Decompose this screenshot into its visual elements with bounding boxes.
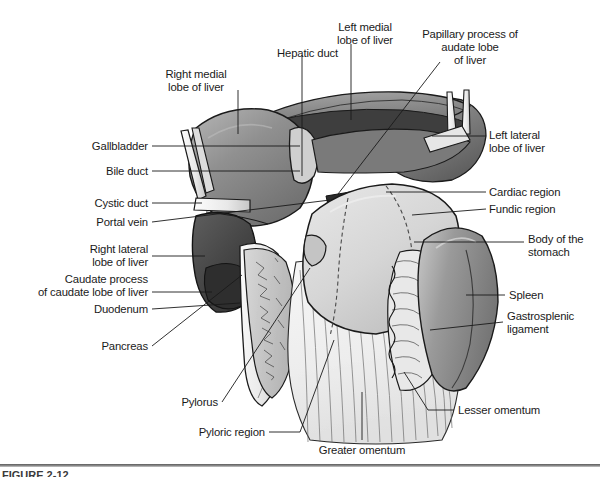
figure-caption: FIGURE 2-12 bbox=[2, 469, 598, 477]
label-papillary-process: Papillary process of audate lobe of live… bbox=[398, 28, 542, 68]
spleen-shape bbox=[418, 228, 498, 391]
label-pylorus: Pylorus bbox=[98, 396, 218, 409]
label-caudate-process: Caudate process of caudate lobe of liver bbox=[4, 273, 148, 299]
label-gastrosplenic-ligament: Gastrosplenic ligament bbox=[507, 310, 600, 336]
label-portal-vein: Portal vein bbox=[28, 216, 148, 229]
label-pyloric-region: Pyloric region bbox=[145, 426, 265, 439]
label-cardiac-region: Cardiac region bbox=[489, 186, 599, 199]
label-lesser-omentum: Lesser omentum bbox=[458, 404, 588, 417]
label-gallbladder: Gallbladder bbox=[28, 140, 148, 153]
label-right-medial-lobe: Right medial lobe of liver bbox=[136, 68, 256, 94]
figure-divider-rule bbox=[0, 464, 600, 467]
label-body-of-stomach: Body of the stomach bbox=[528, 233, 600, 259]
label-duodenum: Duodenum bbox=[28, 303, 148, 316]
label-cystic-duct: Cystic duct bbox=[28, 197, 148, 210]
label-pancreas: Pancreas bbox=[28, 340, 148, 353]
label-bile-duct: Bile duct bbox=[28, 165, 148, 178]
label-fundic-region: Fundic region bbox=[489, 203, 599, 216]
label-left-lateral-lobe: Left lateral lobe of liver bbox=[489, 129, 599, 155]
label-right-lateral-lobe: Right lateral lobe of liver bbox=[28, 243, 148, 269]
spleen-group bbox=[418, 228, 498, 391]
label-hepatic-duct: Hepatic duct bbox=[218, 47, 338, 60]
cystic-duct-shape bbox=[194, 198, 250, 212]
label-greater-omentum: Greater omentum bbox=[302, 444, 422, 457]
label-spleen: Spleen bbox=[509, 289, 599, 302]
